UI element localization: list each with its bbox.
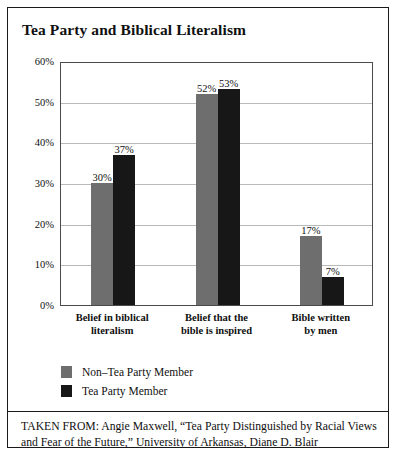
chart-legend: Non–Tea Party MemberTea Party Member: [61, 362, 361, 400]
bar-tea-party: [113, 155, 135, 305]
legend-item: Tea Party Member: [61, 381, 361, 400]
bar-non-tea-party: [91, 183, 113, 305]
legend-label: Tea Party Member: [82, 385, 167, 397]
bar-value-label: 53%: [212, 78, 246, 89]
y-axis-tick-label: 50%: [20, 98, 54, 108]
bar-value-label: 7%: [316, 266, 350, 277]
x-axis-category-label: Belief in biblicalliteralism: [60, 311, 164, 337]
legend-swatch: [61, 366, 72, 378]
y-axis-tick-label: 40%: [20, 138, 54, 148]
page-title: Tea Party and Biblical Literalism: [22, 21, 246, 39]
category-label-line: Bible written: [269, 311, 373, 324]
figure-container: Tea Party and Biblical Literalism 0%10%2…: [7, 7, 389, 448]
legend-item: Non–Tea Party Member: [61, 362, 361, 381]
category-label-line: Belief that the: [164, 311, 268, 324]
bar-value-label: 17%: [294, 225, 328, 236]
source-citation: TAKEN FROM: Angie Maxwell, “Tea Party Di…: [21, 419, 381, 448]
legend-label: Non–Tea Party Member: [82, 366, 193, 378]
bar-tea-party: [218, 89, 240, 305]
y-axis-tick-label: 0%: [20, 301, 54, 311]
y-axis-tick-label: 20%: [20, 220, 54, 230]
chart-plot-wrapper: 0%10%20%30%40%50%60% 30%37%52%53%17%7% B…: [8, 62, 388, 322]
y-axis-tick-label: 60%: [20, 57, 54, 67]
bar-value-label: 37%: [107, 144, 141, 155]
bar-tea-party: [322, 277, 344, 305]
category-label-line: literalism: [60, 324, 164, 337]
divider: [8, 411, 388, 412]
category-label-line: bible is inspired: [164, 324, 268, 337]
x-axis-category-label: Belief that thebible is inspired: [164, 311, 268, 337]
x-axis-category-label: Bible writtenby men: [269, 311, 373, 337]
x-axis-category-labels: Belief in biblicalliteralismBelief that …: [60, 311, 373, 351]
category-label-line: Belief in biblical: [60, 311, 164, 324]
y-axis-tick-label: 10%: [20, 260, 54, 270]
category-label-line: by men: [269, 324, 373, 337]
bar-non-tea-party: [196, 94, 218, 305]
plot-area: 30%37%52%53%17%7%: [60, 62, 373, 306]
y-axis: 0%10%20%30%40%50%60%: [14, 62, 54, 306]
legend-swatch: [61, 385, 72, 397]
y-axis-tick-label: 30%: [20, 179, 54, 189]
